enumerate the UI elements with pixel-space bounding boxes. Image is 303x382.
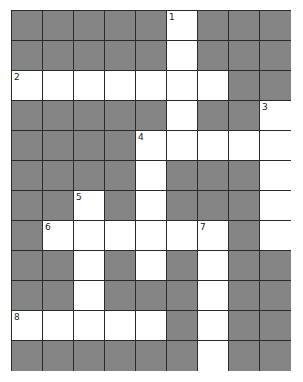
crossword-cell-open[interactable]: [198, 311, 229, 341]
crossword-cell-open[interactable]: [198, 341, 229, 371]
crossword-cell-block: [198, 101, 229, 131]
crossword-cell-block: [198, 41, 229, 71]
crossword-cell-block: [105, 251, 136, 281]
crossword-cell-block: [105, 161, 136, 191]
crossword-cell-open[interactable]: [136, 71, 167, 101]
crossword-cell-block: [229, 161, 260, 191]
crossword-cell-open[interactable]: [105, 311, 136, 341]
crossword-cell-block: [260, 71, 291, 101]
crossword-cell-block: [43, 11, 74, 41]
crossword-cell-block: [43, 251, 74, 281]
crossword-cell-block: [12, 41, 43, 71]
crossword-cell-block: [136, 101, 167, 131]
crossword-cell-block: [136, 281, 167, 311]
crossword-cell-block: [229, 221, 260, 251]
clue-number: 1: [169, 12, 175, 22]
crossword-cell-block: [74, 11, 105, 41]
crossword-cell-block: [229, 41, 260, 71]
crossword-cell-block: [12, 341, 43, 371]
crossword-cell-block: [167, 161, 198, 191]
crossword-cell-block: [198, 191, 229, 221]
crossword-cell-open[interactable]: [198, 281, 229, 311]
clue-number: 7: [200, 222, 206, 232]
crossword-cell-block: [74, 131, 105, 161]
clue-number: 8: [14, 312, 20, 322]
crossword-cell-open[interactable]: [136, 311, 167, 341]
crossword-cell-open[interactable]: [167, 131, 198, 161]
crossword-cell-open[interactable]: [136, 191, 167, 221]
crossword-cell-block: [43, 341, 74, 371]
crossword-cell-block: [229, 281, 260, 311]
crossword-cell-block: [43, 281, 74, 311]
crossword-cell-block: [167, 311, 198, 341]
crossword-cell-open[interactable]: [260, 221, 291, 251]
crossword-cell-block: [105, 11, 136, 41]
crossword-cell-block: [229, 11, 260, 41]
crossword-cell-block: [229, 341, 260, 371]
crossword-cell-block: [12, 221, 43, 251]
crossword-cell-open[interactable]: [74, 281, 105, 311]
clue-number: 6: [45, 222, 51, 232]
crossword-cell-block: [136, 341, 167, 371]
crossword-cell-block: [167, 251, 198, 281]
crossword-cell-open[interactable]: [74, 71, 105, 101]
crossword-cell-block: [260, 281, 291, 311]
crossword-cell-open[interactable]: [260, 161, 291, 191]
crossword-cell-block: [43, 161, 74, 191]
crossword-cell-block: [229, 311, 260, 341]
crossword-cell-open[interactable]: 1: [167, 11, 198, 41]
crossword-cell-open[interactable]: 7: [198, 221, 229, 251]
crossword-cell-block: [229, 71, 260, 101]
crossword-cell-block: [12, 281, 43, 311]
crossword-cell-open[interactable]: [167, 41, 198, 71]
crossword-cell-block: [198, 11, 229, 41]
crossword-cell-open[interactable]: [74, 251, 105, 281]
crossword-cell-open[interactable]: [43, 71, 74, 101]
crossword-cell-open[interactable]: [260, 191, 291, 221]
crossword-cell-block: [74, 41, 105, 71]
crossword-cell-open[interactable]: [74, 221, 105, 251]
crossword-cell-block: [12, 11, 43, 41]
clue-number: 2: [14, 72, 20, 82]
crossword-cell-open[interactable]: [198, 71, 229, 101]
crossword-cell-open[interactable]: [167, 101, 198, 131]
crossword-cell-open[interactable]: [167, 221, 198, 251]
crossword-cell-open[interactable]: [198, 131, 229, 161]
crossword-cell-open[interactable]: 4: [136, 131, 167, 161]
crossword-cell-open[interactable]: 2: [12, 71, 43, 101]
crossword-cell-open[interactable]: [105, 221, 136, 251]
crossword-cell-block: [74, 161, 105, 191]
crossword-cell-block: [105, 131, 136, 161]
crossword-cell-block: [12, 101, 43, 131]
crossword-cell-block: [105, 191, 136, 221]
crossword-cell-block: [74, 341, 105, 371]
crossword-cell-open[interactable]: 8: [12, 311, 43, 341]
crossword-cell-open[interactable]: [198, 251, 229, 281]
crossword-cell-block: [136, 11, 167, 41]
crossword-cell-open[interactable]: [43, 311, 74, 341]
crossword-cell-block: [260, 11, 291, 41]
crossword-cell-block: [136, 41, 167, 71]
clue-number: 3: [262, 102, 268, 112]
crossword-cell-open[interactable]: [136, 221, 167, 251]
crossword-cell-block: [105, 101, 136, 131]
crossword-cell-open[interactable]: [229, 131, 260, 161]
crossword-cell-open[interactable]: 5: [74, 191, 105, 221]
crossword-cell-block: [105, 41, 136, 71]
crossword-cell-open[interactable]: [136, 161, 167, 191]
crossword-cell-block: [12, 251, 43, 281]
crossword-cell-open[interactable]: [74, 311, 105, 341]
crossword-cell-block: [167, 341, 198, 371]
crossword-cell-open[interactable]: [260, 131, 291, 161]
crossword-cell-block: [12, 131, 43, 161]
crossword-cell-open[interactable]: 6: [43, 221, 74, 251]
crossword-cell-open[interactable]: [167, 71, 198, 101]
crossword-cell-open[interactable]: [105, 71, 136, 101]
crossword-cell-block: [43, 131, 74, 161]
crossword-cell-block: [229, 101, 260, 131]
crossword-cell-block: [105, 341, 136, 371]
crossword-cell-block: [105, 281, 136, 311]
crossword-cell-open[interactable]: [136, 251, 167, 281]
crossword-cell-open[interactable]: 3: [260, 101, 291, 131]
clue-number: 5: [76, 192, 82, 202]
